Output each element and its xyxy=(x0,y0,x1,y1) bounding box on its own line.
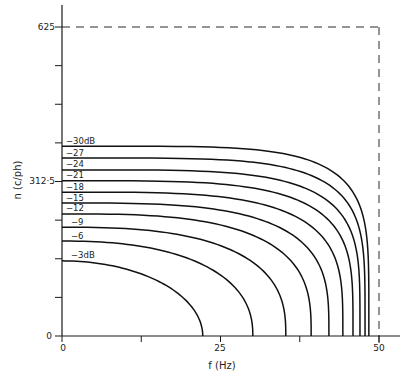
y-ticks xyxy=(55,27,62,336)
contour-label: −9 xyxy=(71,217,84,227)
contour-27 xyxy=(62,158,365,336)
y-tick-label-625: 625 xyxy=(38,22,55,32)
contour-label: −12 xyxy=(66,203,84,213)
contour-15 xyxy=(62,203,329,336)
x-ticks xyxy=(62,336,379,342)
y-tick-label-0: 0 xyxy=(46,331,52,341)
y-axis-title: n (c/ph) xyxy=(12,160,23,199)
x-tick-label-50: 50 xyxy=(373,343,385,353)
contour-21 xyxy=(62,181,353,336)
x-tick-label-0: 0 xyxy=(60,343,66,353)
x-tick-label-25: 25 xyxy=(214,343,225,353)
contour-label: −30dB xyxy=(66,136,95,146)
contour-12 xyxy=(62,214,311,336)
contour-label: −18 xyxy=(66,182,84,192)
contour-chart: 625 312·5 0 0 25 50 f (Hz) n (c/ph) −3dB… xyxy=(0,0,408,376)
contour-label: −3dB xyxy=(71,250,95,260)
contour-label: −21 xyxy=(66,170,84,180)
contour-label: −24 xyxy=(66,159,84,169)
attenuation-contours xyxy=(62,146,369,336)
contour-3db xyxy=(62,261,203,336)
contour-label: −15 xyxy=(66,193,84,203)
contour-24 xyxy=(62,170,360,336)
contour-label: −6 xyxy=(71,231,84,241)
y-tick-label-312-5: 312·5 xyxy=(29,176,55,186)
x-axis-title: f (Hz) xyxy=(208,360,235,371)
contour-label: −27 xyxy=(66,148,84,158)
contour-30db xyxy=(62,146,369,336)
